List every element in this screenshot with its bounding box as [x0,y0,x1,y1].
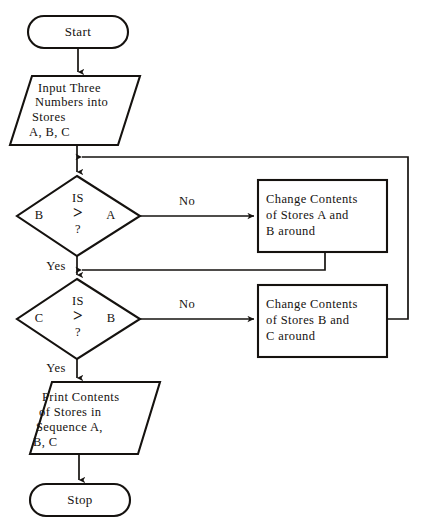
decision-2-left-operand: C [31,312,47,325]
input-line-2: Numbers into [35,95,147,110]
output-line-1: Print Contents [42,390,154,405]
process-1-line-2: of Stores A and [266,208,386,223]
input-line-4: A, B, C [29,125,137,140]
output-line-4: B, C [33,435,145,450]
process-2-line-2: of Stores B and [266,313,386,328]
edge-label-decision-1-no: No [167,194,207,208]
edge-label-decision-2-no: No [167,297,207,311]
decision-2-right-operand: B [103,312,119,325]
process-2-line-3: C around [266,329,386,344]
output-line-3: Sequence A, [36,420,148,435]
edge-label-decision-1-yes: Yes [38,259,74,273]
stop-terminator-label: Stop [30,493,130,507]
input-line-3: Stores [32,110,140,125]
process-1-line-3: B around [266,224,386,239]
decision-1-question-mark: ? [56,223,100,236]
decision-2-question-mark: ? [56,326,100,339]
decision-1-right-operand: A [103,209,119,222]
decision-1-left-operand: B [31,209,47,222]
decision-2-operator: > [57,308,99,323]
process-2-line-1: Change Contents [266,297,386,312]
edge-label-decision-2-yes: Yes [38,361,74,375]
process-1-line-1: Change Contents [266,192,386,207]
flowchart-canvas: Start Input Three Numbers into Stores A,… [0,0,421,530]
edge-process-1-feedback [82,252,325,270]
start-terminator-label: Start [28,25,128,39]
output-line-2: of Stores in [39,405,151,420]
input-line-1: Input Three [38,81,146,96]
decision-1-operator: > [57,205,99,220]
